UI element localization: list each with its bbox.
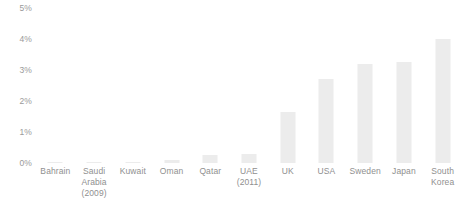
bar-slot xyxy=(36,8,75,163)
x-axis-category-label: SouthKorea xyxy=(423,166,462,188)
bar[interactable] xyxy=(358,64,373,163)
bar-slot xyxy=(113,8,152,163)
x-axis-category-label-line: USA xyxy=(307,166,346,177)
x-axis-category-label-line: Japan xyxy=(385,166,424,177)
y-axis-tick-label: 5% xyxy=(0,4,32,13)
x-axis-category-label-line: Qatar xyxy=(191,166,230,177)
x-axis-category-label-line: Bahrain xyxy=(36,166,75,177)
x-axis-category-label-line: UAE xyxy=(230,166,269,177)
x-axis-category-label-line: (2009) xyxy=(75,188,114,199)
bar-slot xyxy=(152,8,191,163)
y-axis: 5%4%3%2%1%0% xyxy=(0,0,36,170)
x-axis-category-label-line: UK xyxy=(268,166,307,177)
x-axis-category-label-line: (2011) xyxy=(230,177,269,188)
y-axis-tick-label: 1% xyxy=(0,128,32,137)
bar[interactable] xyxy=(125,162,140,163)
y-axis-tick-label: 3% xyxy=(0,66,32,75)
plot-area xyxy=(36,8,462,163)
bar-slot xyxy=(268,8,307,163)
bar[interactable] xyxy=(87,162,102,163)
x-axis-category-label: UAE(2011) xyxy=(230,166,269,188)
x-axis-category-label: Sweden xyxy=(346,166,385,177)
bar-slot xyxy=(423,8,462,163)
bar[interactable] xyxy=(435,39,450,163)
bar[interactable] xyxy=(241,154,256,163)
x-axis-category-label: USA xyxy=(307,166,346,177)
bar-slot xyxy=(385,8,424,163)
bar[interactable] xyxy=(48,162,63,163)
x-axis-category-label-line: Kuwait xyxy=(113,166,152,177)
bar[interactable] xyxy=(164,160,179,163)
x-axis-category-label-line: Korea xyxy=(423,177,462,188)
bar-chart: 5%4%3%2%1%0% BahrainSaudiArabia(2009)Kuw… xyxy=(0,0,462,220)
x-axis-category-label-line: Sweden xyxy=(346,166,385,177)
bar-slot xyxy=(230,8,269,163)
y-axis-tick-label: 2% xyxy=(0,97,32,106)
y-axis-tick-label: 4% xyxy=(0,35,32,44)
x-axis-category-label: Kuwait xyxy=(113,166,152,177)
x-axis-category-label-line: South xyxy=(423,166,462,177)
x-axis-category-label: Qatar xyxy=(191,166,230,177)
x-axis-category-label: Japan xyxy=(385,166,424,177)
x-axis-category-label: Bahrain xyxy=(36,166,75,177)
bar[interactable] xyxy=(319,79,334,163)
x-axis-category-label-line: Oman xyxy=(152,166,191,177)
bar[interactable] xyxy=(280,112,295,163)
x-axis-category-label-line: Arabia xyxy=(75,177,114,188)
x-axis: BahrainSaudiArabia(2009)KuwaitOmanQatarU… xyxy=(36,166,462,220)
y-axis-tick-label: 0% xyxy=(0,159,32,168)
x-axis-category-label: Oman xyxy=(152,166,191,177)
bar-slot xyxy=(191,8,230,163)
bar[interactable] xyxy=(203,155,218,163)
bar[interactable] xyxy=(396,62,411,163)
bar-slot xyxy=(75,8,114,163)
x-axis-category-label-line: Saudi xyxy=(75,166,114,177)
x-axis-category-label: SaudiArabia(2009) xyxy=(75,166,114,199)
bar-slot xyxy=(346,8,385,163)
bar-slot xyxy=(307,8,346,163)
x-axis-category-label: UK xyxy=(268,166,307,177)
